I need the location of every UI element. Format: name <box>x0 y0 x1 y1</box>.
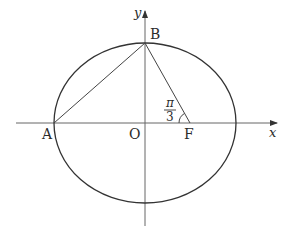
y-axis-label: y <box>133 5 142 20</box>
segment-ab <box>54 43 145 123</box>
angle-label: π 3 <box>164 96 176 124</box>
angle-denominator: 3 <box>166 110 174 124</box>
point-label-f: F <box>184 126 194 142</box>
x-axis-label: x <box>269 125 277 140</box>
point-label-b: B <box>150 26 160 42</box>
point-label-o: O <box>129 126 140 142</box>
point-label-a: A <box>41 126 53 142</box>
angle-arc <box>179 113 185 123</box>
angle-numerator: π <box>165 96 175 110</box>
ellipse-diagram: y x B A O F π 3 <box>0 0 285 238</box>
